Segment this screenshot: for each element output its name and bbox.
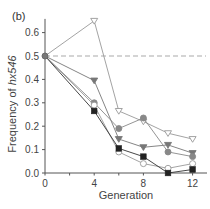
data-point-marker (190, 154, 196, 160)
data-point-marker (140, 161, 146, 167)
series-filled-triangle (45, 56, 196, 156)
y-tick-label: 0.4 (25, 74, 39, 85)
data-point-marker (115, 108, 122, 114)
y-axis-title: Frequency of hx546 (6, 55, 18, 153)
y-tick-label: 0.5 (25, 51, 39, 62)
axes (42, 19, 207, 176)
data-point-marker (141, 154, 147, 160)
line-chart: 0.00.10.20.30.40.50.604812GenerationFreq… (0, 0, 210, 209)
y-tick-label: 0.0 (25, 168, 39, 179)
y-tick-label: 0.2 (25, 121, 39, 132)
x-tick-label: 0 (42, 178, 48, 189)
data-point-marker (165, 170, 171, 176)
data-point-marker (91, 78, 98, 84)
data-point-marker (140, 145, 147, 151)
series-line (45, 21, 193, 139)
data-point-marker (91, 108, 97, 114)
data-point-marker (190, 167, 196, 173)
data-point-marker (165, 149, 171, 155)
data-point-marker (190, 161, 196, 167)
series-start-point (42, 53, 48, 59)
series-open-triangle (45, 18, 196, 142)
data-point-marker (116, 126, 122, 132)
y-tick-label: 0.6 (25, 27, 39, 38)
data-point-marker (116, 146, 122, 152)
y-tick-label: 0.3 (25, 97, 39, 108)
data-point-marker (42, 53, 48, 59)
series-open-circle (45, 56, 196, 171)
x-axis-title: Generation (99, 189, 153, 201)
series-group (42, 18, 196, 175)
x-tick-label: 4 (91, 178, 97, 189)
x-tick-label: 8 (141, 178, 147, 189)
x-tick-label: 12 (187, 178, 199, 189)
series-gray-circle (45, 56, 196, 160)
series-filled-square (45, 56, 195, 176)
data-point-marker (140, 115, 146, 121)
data-point-marker (91, 102, 97, 108)
y-tick-label: 0.1 (25, 144, 39, 155)
data-point-marker (189, 137, 196, 143)
data-point-marker (91, 18, 98, 24)
